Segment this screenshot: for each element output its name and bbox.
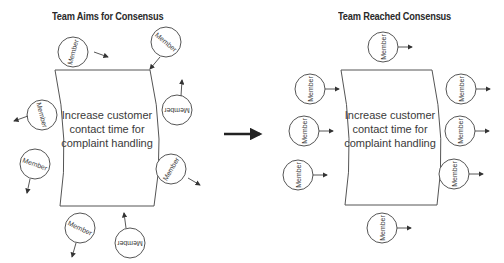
member-label: Member xyxy=(117,240,143,247)
member-node: Member xyxy=(289,116,333,146)
member-label: Member xyxy=(164,107,190,114)
goal-line: contact time for xyxy=(52,122,162,136)
member-node: Member xyxy=(150,27,181,69)
member-node: Member xyxy=(20,149,50,193)
member-node: Member xyxy=(283,160,327,190)
member-direction-arrow xyxy=(150,57,160,69)
member-node: Member xyxy=(65,213,95,257)
goal-line: Increase customer xyxy=(52,108,162,122)
goal-line: Increase customer xyxy=(335,108,445,122)
member-label: Member xyxy=(457,118,464,144)
member-node: Member xyxy=(156,154,200,185)
goal-line: contact time for xyxy=(335,122,445,136)
member-node: Member xyxy=(446,74,490,104)
member-node: Member xyxy=(14,100,57,130)
member-label: Member xyxy=(451,161,458,187)
member-direction-arrow xyxy=(188,178,200,185)
member-direction-arrow xyxy=(72,243,76,257)
member-node: Member xyxy=(115,213,145,258)
member-direction-arrow xyxy=(181,80,182,96)
member-label: Member xyxy=(380,34,387,60)
member-direction-arrow xyxy=(94,52,108,57)
member-node: Member xyxy=(58,37,108,67)
left-goal-text: Increase customer contact time for compl… xyxy=(52,108,162,150)
member-direction-arrow xyxy=(14,116,28,121)
right-goal-text: Increase customer contact time for compl… xyxy=(335,108,445,150)
member-node: Member xyxy=(162,80,192,125)
goal-line: complaint handling xyxy=(52,136,162,150)
member-label: Member xyxy=(458,76,465,102)
member-node: Member xyxy=(445,116,489,146)
member-direction-arrow xyxy=(27,179,30,193)
member-node: Member xyxy=(295,74,339,104)
member-node: Member xyxy=(367,213,411,243)
member-label: Member xyxy=(307,76,314,102)
goal-line: complaint handling xyxy=(335,136,445,150)
member-label: Member xyxy=(301,118,308,144)
member-direction-arrow xyxy=(124,213,126,228)
member-node: Member xyxy=(368,32,412,62)
member-node: Member xyxy=(439,159,483,189)
member-label: Member xyxy=(379,215,386,241)
member-label: Member xyxy=(295,162,302,188)
